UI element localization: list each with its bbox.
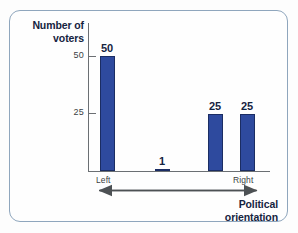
y-axis-title-line2: voters xyxy=(53,32,84,44)
axis-direction-arrow-icon xyxy=(88,184,268,198)
y-axis-tick-label-25: 25 xyxy=(62,107,84,117)
x-axis-title: Political orientation xyxy=(180,198,278,223)
bar-value-label-2: 1 xyxy=(147,155,177,167)
chart-plot-area: Number of voters 50 25 50 1 25 25 Left R… xyxy=(0,0,298,233)
bar-3[interactable] xyxy=(208,114,223,172)
bar-4[interactable] xyxy=(240,114,255,172)
figure-container: Number of voters 50 25 50 1 25 25 Left R… xyxy=(0,0,298,233)
y-axis-tick-label-50: 50 xyxy=(62,50,84,60)
y-axis-line xyxy=(88,23,89,172)
x-axis-line xyxy=(88,171,270,172)
y-axis-tick-50 xyxy=(89,56,96,57)
bar-value-label-4: 25 xyxy=(232,100,262,112)
bar-2[interactable] xyxy=(155,169,170,172)
bar-1[interactable] xyxy=(100,56,115,171)
y-axis-title: Number of voters xyxy=(16,19,84,44)
bar-value-label-3: 25 xyxy=(200,100,230,112)
y-axis-title-line1: Number of xyxy=(32,19,84,31)
y-axis-tick-25 xyxy=(89,113,96,114)
x-axis-title-line1: Political xyxy=(239,198,278,210)
bar-value-label-1: 50 xyxy=(92,42,122,54)
x-axis-title-line2: orientation xyxy=(225,211,278,223)
